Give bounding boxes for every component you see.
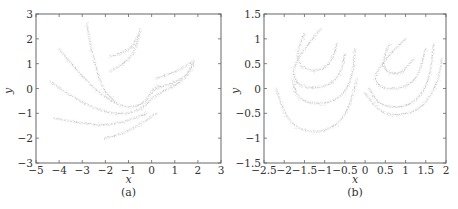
data-point: [327, 127, 328, 128]
data-point: [192, 64, 193, 65]
data-point: [393, 49, 394, 50]
data-point: [295, 80, 296, 81]
data-point: [302, 100, 303, 101]
data-point: [319, 87, 320, 88]
data-point: [331, 80, 332, 81]
data-point: [283, 112, 284, 113]
data-point: [87, 28, 88, 29]
data-point: [425, 88, 426, 89]
data-point: [119, 52, 120, 53]
data-point: [319, 85, 320, 86]
x-axis-label-b: x: [352, 173, 359, 186]
data-point: [385, 67, 386, 68]
data-point: [422, 102, 423, 103]
data-point: [355, 60, 356, 61]
data-point: [321, 30, 322, 31]
data-point: [383, 62, 384, 63]
data-point: [399, 107, 400, 108]
data-point: [189, 71, 190, 72]
data-point: [304, 86, 305, 87]
data-point: [347, 89, 348, 90]
data-point: [136, 41, 137, 42]
data-point: [109, 57, 110, 58]
data-point: [296, 54, 297, 55]
data-point: [103, 95, 104, 96]
data-point: [87, 80, 88, 81]
data-point: [194, 65, 195, 66]
data-point: [64, 55, 65, 56]
data-point: [158, 95, 159, 96]
data-point: [114, 121, 115, 122]
data-point: [405, 87, 406, 88]
data-point: [112, 100, 113, 101]
data-point: [332, 82, 333, 83]
data-point: [294, 84, 295, 85]
data-point: [175, 80, 176, 81]
data-point: [355, 65, 356, 66]
data-point: [103, 92, 104, 93]
data-point: [296, 82, 297, 83]
data-point: [440, 76, 441, 77]
data-point: [301, 36, 302, 37]
data-point: [158, 84, 159, 85]
data-point: [133, 110, 134, 111]
data-point: [315, 35, 316, 36]
data-point: [300, 65, 301, 66]
data-point: [379, 86, 380, 87]
data-point: [302, 49, 303, 50]
data-point: [429, 76, 430, 77]
data-point: [332, 56, 333, 57]
data-point: [383, 67, 384, 68]
data-point: [312, 87, 313, 88]
data-point: [98, 124, 99, 125]
data-point: [100, 126, 101, 127]
data-point: [417, 108, 418, 109]
data-point: [294, 128, 295, 129]
data-point: [302, 36, 303, 37]
data-point: [304, 68, 305, 69]
x-tick-label: 3: [218, 164, 225, 176]
data-point: [347, 112, 348, 113]
data-point: [322, 131, 323, 132]
data-point: [296, 64, 297, 65]
data-point: [179, 71, 180, 72]
data-point: [178, 78, 179, 79]
data-point: [344, 62, 345, 63]
data-point: [418, 94, 419, 95]
data-point: [345, 90, 346, 91]
data-point: [431, 46, 432, 47]
data-point: [404, 69, 405, 70]
data-point: [416, 109, 417, 110]
data-point: [355, 88, 356, 89]
y-axis-label-a: y: [2, 87, 15, 95]
data-point: [154, 98, 155, 99]
data-point: [424, 51, 425, 52]
data-point: [126, 131, 127, 132]
data-point: [155, 76, 156, 77]
panel-b: −2.5−2−1.5−1−0.500.511.52−1.5−1−0.500.51…: [229, 8, 449, 199]
data-point: [140, 124, 141, 125]
attractor-filament: [87, 24, 115, 101]
data-point: [340, 75, 341, 76]
data-point: [139, 33, 140, 34]
data-point: [162, 91, 163, 92]
data-point: [376, 77, 377, 78]
data-point: [106, 137, 107, 138]
data-point: [95, 64, 96, 65]
data-point: [131, 43, 132, 44]
data-point: [375, 105, 376, 106]
data-point: [315, 38, 316, 39]
data-point: [60, 121, 61, 122]
data-point: [336, 79, 337, 80]
data-point: [351, 63, 352, 64]
data-point: [89, 34, 90, 35]
data-point: [316, 130, 317, 131]
data-point: [108, 56, 109, 57]
data-point: [104, 138, 105, 139]
data-point: [117, 52, 118, 53]
data-point: [436, 88, 437, 89]
data-point: [380, 67, 381, 68]
data-point: [424, 50, 425, 51]
data-point: [389, 52, 390, 53]
data-point: [392, 72, 393, 73]
